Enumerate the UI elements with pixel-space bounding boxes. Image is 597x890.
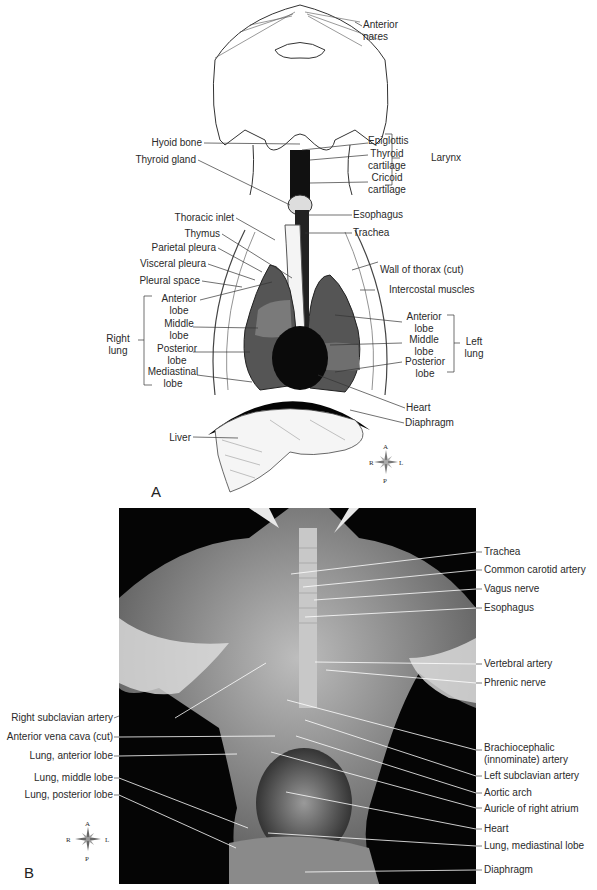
label-thyroid-gland: Thyroid gland	[130, 154, 196, 166]
compass-rose-a	[374, 450, 398, 474]
label-b-vagus-nerve: Vagus nerve	[484, 583, 539, 595]
label-visceral-pleura: Visceral pleura	[128, 258, 206, 270]
compass-a-right: R	[369, 457, 374, 469]
label-parietal-pleura: Parietal pleura	[140, 242, 216, 254]
label-cricoid-cartilage: Cricoidcartilage	[362, 172, 412, 196]
label-trachea: Trachea	[353, 227, 389, 239]
compass-a-left: L	[399, 457, 403, 469]
label-right-middle-lobe: Middlelobe	[158, 318, 200, 342]
label-hyoid-bone: Hyoid bone	[140, 137, 202, 149]
compass-b-right: R	[66, 834, 71, 846]
label-b-auricle-of-right-atrium: Auricle of right atrium	[484, 803, 578, 815]
heart-shape	[272, 326, 328, 390]
label-b-diaphragm: Diaphragm	[484, 864, 533, 876]
label-right-mediastinal-lobe: Mediastinallobe	[144, 366, 202, 390]
label-left-lung: Leftlung	[460, 336, 488, 360]
label-larynx: Larynx	[431, 152, 461, 164]
label-b-left-subclavian-artery: Left subclavian artery	[484, 770, 579, 782]
label-left-anterior-lobe: Anteriorlobe	[402, 311, 446, 335]
liver-shape	[215, 409, 363, 492]
label-right-posterior-lobe: Posteriorlobe	[153, 343, 201, 367]
label-b-aortic-arch: Aortic arch	[484, 787, 532, 799]
compass-rose-b	[75, 827, 101, 851]
compass-a-anterior: A	[383, 441, 388, 453]
label-thoracic-inlet: Thoracic inlet	[160, 212, 234, 224]
panel-a-illustration	[0, 0, 597, 500]
label-b-lung-middle-lobe: Lung, middle lobe	[0, 772, 113, 784]
panel-a-letter: A	[151, 483, 161, 500]
label-b-trachea: Trachea	[484, 546, 520, 558]
label-b-lung-anterior-lobe: Lung, anterior lobe	[0, 750, 113, 762]
label-thymus: Thymus	[170, 228, 220, 240]
label-b-common-carotid-artery: Common carotid artery	[484, 564, 586, 576]
label-left-posterior-lobe: Posteriorlobe	[400, 356, 450, 380]
label-diaphragm-a: Diaphragm	[405, 417, 454, 429]
label-b-heart: Heart	[484, 823, 508, 835]
label-b-phrenic-nerve: Phrenic nerve	[484, 677, 546, 689]
panel-b-photograph	[119, 508, 476, 884]
label-b-lung-posterior-lobe: Lung, posterior lobe	[0, 789, 113, 801]
compass-b-anterior: A	[85, 818, 90, 830]
label-b-right-subclavian-artery: Right subclavian artery	[0, 712, 113, 724]
compass-a-posterior: P	[383, 475, 387, 487]
label-esophagus: Esophagus	[353, 209, 403, 221]
label-anterior-nares: Anteriornares	[363, 19, 398, 43]
label-b-lung-mediastinal-lobe: Lung, mediastinal lobe	[484, 840, 584, 852]
label-b-vertebral-artery: Vertebral artery	[484, 658, 552, 670]
label-wall-of-thorax: Wall of thorax (cut)	[380, 264, 464, 276]
label-heart-a: Heart	[406, 402, 430, 414]
label-right-anterior-lobe: Anteriorlobe	[158, 293, 200, 317]
head-outline	[213, 5, 388, 150]
label-pleural-space: Pleural space	[128, 275, 200, 287]
panel-b-letter: B	[24, 864, 34, 881]
label-thyroid-cartilage: Thyroidcartilage	[362, 148, 412, 172]
label-b-anterior-vena-cava: Anterior vena cava (cut)	[0, 731, 113, 743]
label-right-lung: Rightlung	[103, 333, 133, 357]
label-left-middle-lobe: Middlelobe	[402, 334, 446, 358]
label-liver: Liver	[160, 432, 191, 444]
label-intercostal-muscles: Intercostal muscles	[389, 284, 475, 296]
compass-b-left: L	[105, 834, 109, 846]
label-epiglottis: Epiglottis	[368, 135, 409, 147]
compass-b-posterior: P	[85, 853, 89, 865]
label-b-esophagus: Esophagus	[484, 602, 534, 614]
label-b-brachiocephalic-artery: Brachiocephalic(innominate) artery	[484, 742, 568, 766]
